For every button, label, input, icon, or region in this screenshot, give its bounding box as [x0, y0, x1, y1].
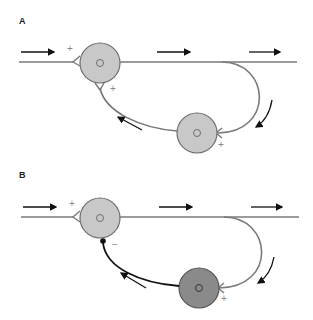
neural-circuit-diagram: A + + + B + — [0, 0, 313, 320]
axon-collateral — [218, 62, 259, 133]
excitatory-synapse-icon — [73, 211, 80, 222]
inhibitory-synapse-icon — [100, 238, 106, 244]
collateral-sign: + — [221, 293, 227, 304]
panel-a: A + + + — [19, 16, 297, 153]
panel-b: B + + − — [19, 170, 299, 308]
interneuron — [177, 113, 217, 153]
collateral-sign: + — [218, 139, 224, 150]
principal-neuron — [80, 198, 120, 238]
panel-label-b: B — [19, 170, 26, 180]
feedback-sign: − — [112, 239, 118, 250]
principal-neuron — [80, 43, 120, 83]
feedback-axon — [100, 88, 177, 131]
excitatory-synapse-icon — [73, 56, 80, 66]
input-sign: + — [69, 198, 75, 209]
input-sign: + — [67, 43, 73, 54]
axon-collateral — [219, 217, 262, 288]
excitatory-synapse-icon — [95, 83, 104, 90]
feedback-sign: + — [110, 83, 116, 94]
panel-label-a: A — [19, 16, 26, 26]
inhibitory-interneuron — [179, 268, 219, 308]
